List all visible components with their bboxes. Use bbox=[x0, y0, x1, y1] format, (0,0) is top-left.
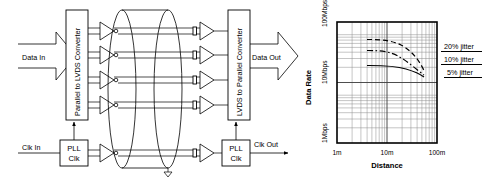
data-out-label: Data Out bbox=[252, 53, 281, 62]
chart-xtick-label-10m: 10m bbox=[381, 149, 394, 156]
chart-series-group bbox=[367, 39, 424, 77]
rx-pll-label-line2: Clk bbox=[231, 154, 242, 163]
chart-xtick-label-100m: 100m bbox=[429, 149, 446, 156]
figure-root: Data In Parallel to LVDS Converter PLL C… bbox=[0, 0, 499, 182]
block-diagram: Data In Parallel to LVDS Converter PLL C… bbox=[18, 10, 298, 177]
tx-pll-label-line1: PLL bbox=[67, 144, 81, 153]
channel-row bbox=[88, 96, 228, 114]
legend-item-5-jitter: 5% jitter bbox=[447, 68, 474, 77]
tx-converter-label: Parallel to LVDS Converter bbox=[73, 27, 82, 116]
series-10-jitter bbox=[367, 50, 424, 75]
data-in-label: Data In bbox=[22, 53, 45, 62]
channel-row bbox=[88, 22, 228, 40]
rx-converter-label: LVDS to Parallel Converter bbox=[235, 27, 244, 116]
chart-xlabel: Distance bbox=[371, 161, 403, 170]
clk-in-label: Clk In bbox=[22, 143, 40, 152]
legend-item-10-jitter: 10% jitter bbox=[444, 55, 475, 64]
legend-item-20-jitter: 20% jitter bbox=[444, 42, 475, 51]
channel-row bbox=[88, 71, 228, 89]
chart-ylabel: Data Rate bbox=[304, 70, 313, 105]
ground-icon bbox=[164, 168, 172, 177]
chart-ytick-label-100mbps: 100Mbps bbox=[321, 0, 329, 27]
clock-channel-row bbox=[88, 144, 222, 162]
rx-pll-label-line1: PLL bbox=[229, 144, 243, 153]
clk-out-label: Clk Out bbox=[254, 140, 278, 149]
chart-ytick-label-10mbps: 10Mbps bbox=[321, 60, 329, 84]
chart-xtick-label-1m: 1m bbox=[332, 149, 342, 156]
chart: 100Mbps 10Mbps 1Mbps Data Rate 1m 10m 10… bbox=[304, 0, 482, 170]
tx-pll-label-line2: Clk bbox=[69, 154, 80, 163]
chart-ytick-label-1mbps: 1Mbps bbox=[321, 123, 329, 143]
figure-canvas: Data In Parallel to LVDS Converter PLL C… bbox=[0, 0, 499, 182]
chart-legend: 20% jitter 10% jitter 5% jitter bbox=[441, 42, 482, 78]
